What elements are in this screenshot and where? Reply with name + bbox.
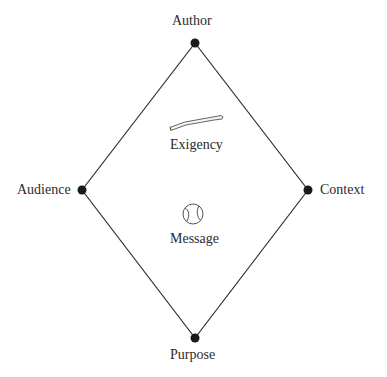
- center-label-exigency: Exigency: [170, 137, 223, 153]
- node-label-purpose: Purpose: [170, 347, 215, 363]
- center-label-message: Message: [170, 231, 219, 247]
- node-audience: [78, 186, 87, 195]
- node-purpose: [191, 334, 200, 343]
- edge-context-purpose: [195, 190, 308, 338]
- diamond-edges: [82, 43, 308, 338]
- edge-author-context: [195, 43, 308, 190]
- node-context: [304, 186, 313, 195]
- node-label-context: Context: [320, 182, 364, 198]
- node-label-author: Author: [172, 13, 212, 29]
- node-label-audience: Audience: [17, 182, 71, 198]
- baseball-bat-icon: [170, 116, 223, 132]
- baseball-icon: [183, 204, 203, 224]
- edge-purpose-audience: [82, 190, 195, 338]
- node-author: [191, 39, 200, 48]
- edge-audience-author: [82, 43, 195, 190]
